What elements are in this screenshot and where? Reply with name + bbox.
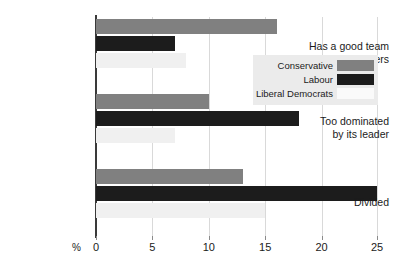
bar-chart: Has a good team of leaders Too dominated… [0,0,397,277]
legend-item-labour: Labour [258,74,374,85]
tick-mark-15 [265,236,266,240]
xtick-label-15: 15 [245,241,285,253]
bar-libdem-too-dominated [96,128,175,143]
legend-label-labour: Labour [303,74,333,85]
tick-mark-10 [209,236,210,240]
legend-item-liberal-democrats: Liberal Democrats [258,88,374,99]
tick-mark-25 [377,236,378,240]
bar-conservative-divided [96,169,243,184]
legend: Conservative Labour Liberal Democrats [253,55,378,105]
legend-swatch-labour [337,74,374,85]
legend-item-conservative: Conservative [258,60,374,71]
legend-label-liberal-democrats: Liberal Democrats [256,88,333,99]
bar-labour-divided [96,186,377,201]
gridline-15 [265,17,266,236]
xtick-label-5: 5 [132,241,172,253]
xtick-label-25: 25 [357,241,397,253]
category-label-too-dominated: Too dominated by its leader [320,115,389,140]
bar-conservative-has-good-team [96,19,277,34]
legend-swatch-liberal-democrats [337,88,374,99]
bar-labour-too-dominated [96,111,299,126]
tick-mark-0 [96,236,97,240]
bar-labour-has-good-team [96,36,175,51]
bar-libdem-divided [96,203,265,218]
xtick-label-0: 0 [76,241,116,253]
category-label-divided: Divided [354,196,389,209]
tick-mark-5 [152,236,153,240]
legend-label-conservative: Conservative [278,60,333,71]
bar-libdem-has-good-team [96,53,186,68]
xtick-label-20: 20 [302,241,342,253]
bar-conservative-too-dominated [96,94,209,109]
tick-mark-20 [322,236,323,240]
legend-swatch-conservative [337,60,374,71]
xtick-label-10: 10 [189,241,229,253]
